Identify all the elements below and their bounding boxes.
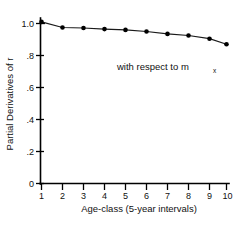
data-point [39, 20, 44, 25]
annotation-label: with respect to m [116, 61, 189, 72]
x-tick-label-4: 4 [102, 191, 107, 201]
y-tick-label-0.8: .8 [26, 51, 34, 61]
data-point [102, 27, 107, 32]
data-point [144, 29, 149, 34]
x-tick-label-9: 9 [207, 191, 212, 201]
y-tick-label-1.0: 1.0 [21, 19, 34, 29]
data-point [60, 25, 65, 30]
data-point [186, 33, 191, 38]
x-tick-label-2: 2 [60, 191, 65, 201]
y-tick-label-0: 0 [29, 179, 34, 189]
y-axis-title: Partial Derivatives of r [4, 58, 15, 151]
data-point [165, 32, 170, 37]
x-tick-label-8: 8 [186, 191, 191, 201]
data-series-partial-derivative [39, 20, 229, 47]
y-tick-label-0.2: .2 [26, 147, 34, 157]
line-chart: 1.0 .8 .6 .4 .2 0 1 2 3 4 5 6 7 8 9 10 A… [0, 0, 252, 226]
chart-container: 1.0 .8 .6 .4 .2 0 1 2 3 4 5 6 7 8 9 10 A… [0, 0, 252, 226]
annotation-subscript: x [213, 67, 217, 74]
x-tick-label-5: 5 [123, 191, 128, 201]
data-point [207, 36, 212, 41]
y-tick-label-0.4: .4 [26, 115, 34, 125]
data-point [123, 28, 128, 33]
data-point [81, 26, 86, 31]
x-tick-label-1: 1 [39, 191, 44, 201]
series-line [42, 22, 227, 44]
x-axis-title: Age-class (5-year intervals) [81, 203, 197, 214]
x-tick-label-10: 10 [222, 191, 232, 201]
y-tick-label-0.6: .6 [26, 83, 34, 93]
x-tick-label-6: 6 [144, 191, 149, 201]
x-tick-label-3: 3 [81, 191, 86, 201]
x-tick-label-7: 7 [165, 191, 170, 201]
data-point [224, 42, 229, 47]
